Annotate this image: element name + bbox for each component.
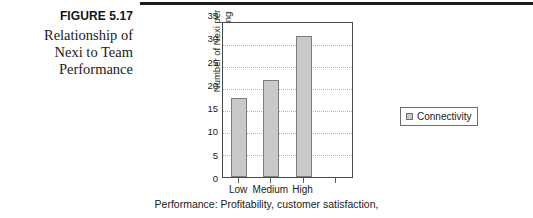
gridline [223,89,352,90]
y-axis-tick-label: 0 [196,174,218,184]
y-axis-tick-label: 30 [196,34,218,44]
figure-title: Relationship of Nexi to Team Performance [0,27,133,78]
x-axis-tick [335,178,336,183]
x-axis-tick-labels: LowMediumHigh [210,184,370,198]
bar [296,36,312,177]
y-axis-tick-label: 10 [196,127,218,137]
figure-title-line: Performance [0,61,133,78]
legend-swatch-connectivity [406,113,413,120]
chart-legend: Connectivity [400,107,478,126]
y-axis-tick-label: 5 [196,151,218,161]
plot-area [222,22,353,178]
x-axis-tick [303,178,304,183]
legend-label: Connectivity [417,111,471,122]
x-axis-tick-label: Medium [253,184,289,196]
y-axis-tick-label: 35 [196,11,218,21]
bar [231,98,247,177]
y-axis-tick-label: 15 [196,104,218,114]
figure-title-line: Nexi to Team [0,44,133,61]
bar [263,80,279,177]
x-axis-tick-label: High [292,184,313,196]
x-axis-tick [238,178,239,183]
bar-chart: Number of Nexi per 50-minute meeting 051… [170,8,533,193]
gridline [223,45,352,46]
figure-number: FIGURE 5.17 [0,8,133,25]
x-axis-tick [270,178,271,183]
y-axis-tick-labels: 05101520253035 [196,16,218,179]
y-axis-tick-label: 25 [196,58,218,68]
x-axis-caption: Performance: Profitability, customer sat… [0,198,533,211]
figure-caption: FIGURE 5.17 Relationship of Nexi to Team… [0,8,133,78]
y-axis-tick-label: 20 [196,81,218,91]
x-axis-tick-label: Low [229,184,247,196]
header-rule [140,2,533,5]
gridline [223,67,352,68]
figure-title-line: Relationship of [0,27,133,44]
